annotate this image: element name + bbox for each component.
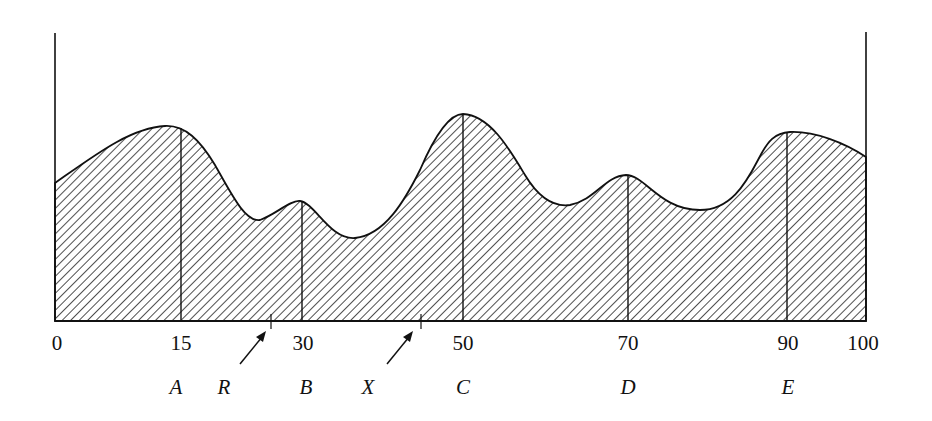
point-label-b: B [300, 377, 313, 398]
hatched-area [55, 114, 866, 321]
point-label-x: X [362, 377, 375, 398]
point-label-e: E [782, 377, 795, 398]
tick-label-90: 90 [778, 333, 799, 354]
arrow-r-icon [240, 331, 266, 364]
tick-label-50: 50 [453, 333, 474, 354]
hatched-area-diagram [0, 0, 932, 421]
point-label-d: D [620, 377, 635, 398]
tick-label-70: 70 [618, 333, 639, 354]
tick-label-100: 100 [847, 333, 879, 354]
tick-label-15: 15 [171, 333, 192, 354]
point-label-c: C [456, 377, 470, 398]
tick-label-0: 0 [52, 333, 63, 354]
tick-label-30: 30 [293, 333, 314, 354]
arrow-x-icon [387, 331, 413, 364]
point-label-r: R [218, 377, 231, 398]
point-label-a: A [170, 377, 183, 398]
